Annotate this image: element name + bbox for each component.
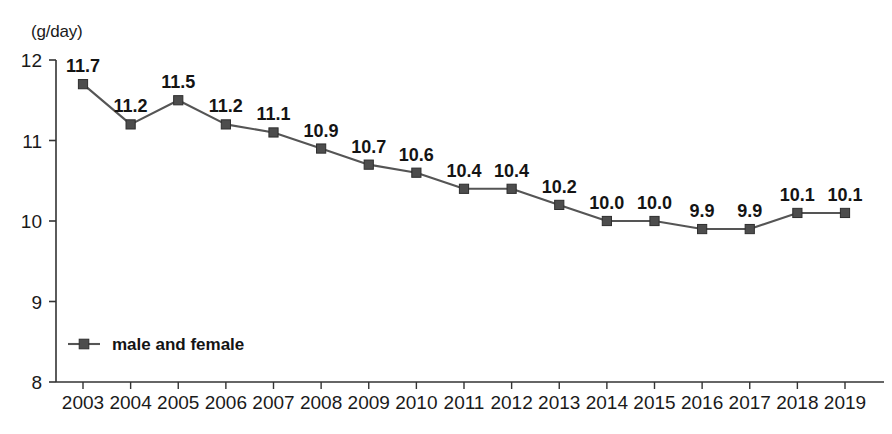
data-label-2014: 10.0 bbox=[582, 194, 632, 212]
data-label-2006: 11.2 bbox=[201, 97, 251, 115]
data-label-2012: 10.4 bbox=[487, 162, 537, 180]
x-axis-tick-2011: 2011 bbox=[439, 393, 489, 412]
data-label-2010: 10.6 bbox=[391, 146, 441, 164]
legend-item-label: male and female bbox=[112, 335, 244, 355]
x-axis-tick-2013: 2013 bbox=[534, 393, 584, 412]
x-axis-tick-2010: 2010 bbox=[391, 393, 441, 412]
y-axis-tick-10: 10 bbox=[16, 212, 42, 231]
data-label-2009: 10.7 bbox=[344, 138, 394, 156]
x-axis-tick-2004: 2004 bbox=[106, 393, 156, 412]
x-axis-tick-2019: 2019 bbox=[820, 393, 870, 412]
data-label-2019: 10.1 bbox=[820, 186, 870, 204]
data-label-2013: 10.2 bbox=[534, 178, 584, 196]
data-label-2017: 9.9 bbox=[725, 202, 775, 220]
x-axis-tick-2009: 2009 bbox=[344, 393, 394, 412]
data-label-2016: 9.9 bbox=[677, 202, 727, 220]
y-axis-tick-9: 9 bbox=[16, 293, 42, 312]
y-axis-tick-8: 8 bbox=[16, 373, 42, 392]
data-label-2015: 10.0 bbox=[630, 194, 680, 212]
x-axis-tick-2015: 2015 bbox=[630, 393, 680, 412]
x-axis-tick-2014: 2014 bbox=[582, 393, 632, 412]
data-label-2004: 11.2 bbox=[106, 97, 156, 115]
x-axis-tick-2006: 2006 bbox=[201, 393, 251, 412]
y-axis-tick-12: 12 bbox=[16, 51, 42, 70]
x-axis-tick-2005: 2005 bbox=[153, 393, 203, 412]
data-label-2011: 10.4 bbox=[439, 162, 489, 180]
x-axis-tick-2007: 2007 bbox=[249, 393, 299, 412]
x-axis-tick-2008: 2008 bbox=[296, 393, 346, 412]
x-axis-tick-2018: 2018 bbox=[772, 393, 822, 412]
data-label-2008: 10.9 bbox=[296, 122, 346, 140]
data-label-2007: 11.1 bbox=[249, 105, 299, 123]
data-label-2003: 11.7 bbox=[58, 57, 108, 75]
x-axis-tick-2003: 2003 bbox=[58, 393, 108, 412]
legend-symbol bbox=[68, 339, 100, 349]
data-label-2018: 10.1 bbox=[772, 186, 822, 204]
y-axis-tick-11: 11 bbox=[16, 132, 42, 151]
x-axis-tick-2012: 2012 bbox=[487, 393, 537, 412]
x-axis-tick-2017: 2017 bbox=[725, 393, 775, 412]
line-chart: (g/day) male and female 89101112 2003200… bbox=[0, 0, 892, 434]
x-axis-tick-2016: 2016 bbox=[677, 393, 727, 412]
data-label-2005: 11.5 bbox=[153, 73, 203, 91]
